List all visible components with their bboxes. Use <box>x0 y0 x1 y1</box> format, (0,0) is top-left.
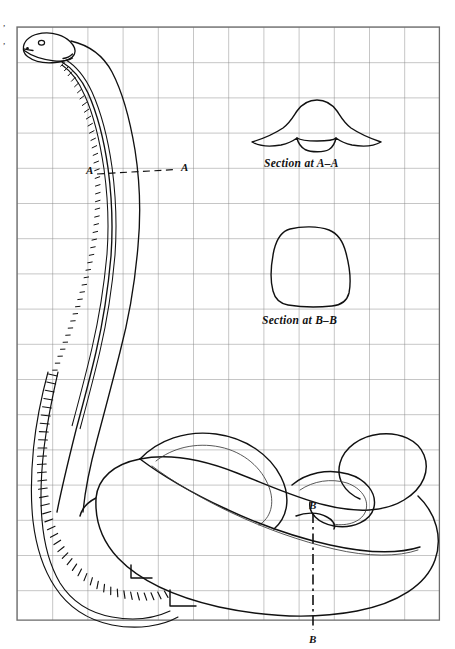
figure-page: Section at A–A Section at B–B A A B B ’ … <box>0 0 455 649</box>
marker-b-upper: B <box>309 500 316 511</box>
edge-mark-bottom: ’ <box>2 42 5 51</box>
measuring-grid <box>17 27 439 620</box>
nostril-icon <box>26 47 29 50</box>
edge-mark-top: ’ <box>2 24 5 33</box>
plesiosaur-reconstruction-figure <box>0 0 455 649</box>
marker-b-lower: B <box>309 634 316 645</box>
marker-a-right: A <box>181 162 188 173</box>
caption-section-a: Section at A–A <box>264 158 339 170</box>
marker-a-left: A <box>86 165 93 176</box>
caption-section-b: Section at B–B <box>262 315 337 327</box>
